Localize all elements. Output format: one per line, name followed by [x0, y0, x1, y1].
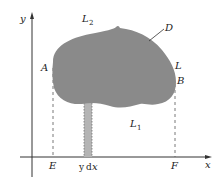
x-axis	[20, 155, 212, 159]
y-axis	[30, 12, 34, 177]
region-D	[52, 26, 176, 108]
svg-text:x: x	[92, 161, 98, 172]
svg-text:1: 1	[137, 124, 141, 132]
svg-text:2: 2	[89, 19, 93, 27]
curve-L-label: L	[174, 60, 182, 71]
point-E-label: E	[48, 160, 57, 171]
region-D-label: D	[164, 22, 173, 33]
vertical-strip	[84, 100, 92, 157]
svg-text:y: y	[78, 162, 85, 172]
x-axis-label: x	[205, 159, 211, 170]
point-F-label: F	[170, 160, 179, 171]
region-D-leader	[149, 29, 164, 41]
point-A-label: A	[40, 62, 48, 73]
curve-L1-label: L 1	[129, 118, 141, 132]
svg-text:L: L	[129, 118, 137, 129]
y-axis-label: y	[19, 13, 26, 24]
point-B-label: B	[176, 75, 184, 86]
svg-text:L: L	[81, 13, 89, 24]
region-integral-diagram: y x A B E F L D L 2 L 1 y d x	[0, 0, 222, 184]
curve-L2-label: L 2	[81, 13, 93, 27]
strip-label-ydx: y d x	[78, 161, 98, 172]
